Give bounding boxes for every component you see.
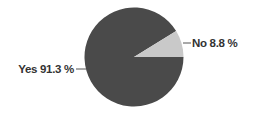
pie-slices [84, 7, 183, 106]
pie-chart: No 8.8 % Yes 91.3 % [0, 0, 255, 114]
label-yes: Yes 91.3 % [18, 63, 74, 75]
label-no: No 8.8 % [192, 37, 238, 49]
